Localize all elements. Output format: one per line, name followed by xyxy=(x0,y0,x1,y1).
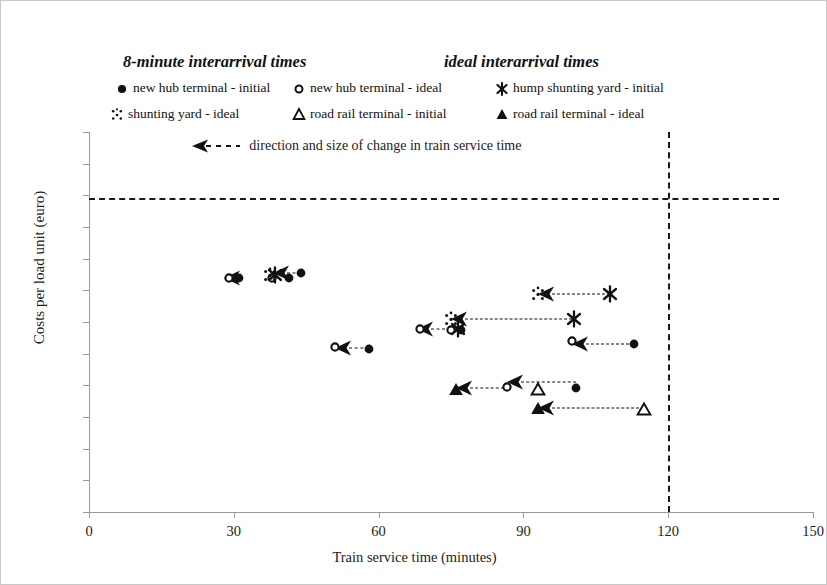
legend-item-label: new hub terminal - initial xyxy=(133,81,270,95)
legend-item-label: shunting yard - ideal xyxy=(128,107,239,121)
data-point xyxy=(565,334,579,348)
data-point xyxy=(529,400,546,416)
x-axis-tick xyxy=(813,512,814,518)
filled-circle-icon xyxy=(114,80,130,96)
hollow-circle-icon xyxy=(291,80,307,96)
legend-item-hump-shunting-yard-initial[interactable]: hump shunting yard - initial xyxy=(494,80,664,96)
legend-item-road-rail-terminal-initial[interactable]: road rail terminal - initial xyxy=(291,106,446,122)
x-axis-tick xyxy=(234,512,235,518)
legend-item-label: hump shunting yard - initial xyxy=(513,81,664,95)
legend-group-title-8-minute: 8-minute interarrival times xyxy=(123,52,306,72)
x-axis-tick xyxy=(668,512,669,518)
cost-threshold-reference-line xyxy=(89,198,779,200)
data-point xyxy=(447,381,464,397)
data-point xyxy=(413,322,427,336)
data-point xyxy=(328,340,342,354)
annotation-text: direction and size of change in train se… xyxy=(249,138,521,154)
legend-item-new-hub-terminal-ideal[interactable]: new hub terminal - ideal xyxy=(291,80,442,96)
x-axis-label: Train service time (minutes) xyxy=(1,549,827,566)
x-axis-line xyxy=(89,512,814,513)
legend-item-label: road rail terminal - initial xyxy=(310,107,446,121)
x-axis-tick xyxy=(379,512,380,518)
y-axis-label: Costs per load unit (euro) xyxy=(31,118,48,418)
data-point xyxy=(294,266,308,280)
left-dashed-arrow-icon xyxy=(190,138,242,154)
data-point xyxy=(222,271,236,285)
filled-star-icon xyxy=(494,80,510,96)
change-arrow-line xyxy=(465,318,571,319)
data-point xyxy=(262,267,278,283)
data-point xyxy=(500,380,514,394)
legend-item-label: new hub terminal - ideal xyxy=(310,81,442,95)
x-axis-tick-label: 90 xyxy=(516,523,531,540)
change-arrow-line xyxy=(552,408,644,409)
x-axis-tick xyxy=(523,512,524,518)
legend-item-road-rail-terminal-ideal[interactable]: road rail terminal - ideal xyxy=(494,106,644,122)
time-threshold-reference-line xyxy=(668,132,670,512)
x-axis-tick-label: 0 xyxy=(85,523,92,540)
chart-figure: 8-minute interarrival times ideal intera… xyxy=(0,0,827,585)
x-axis-tick-label: 60 xyxy=(371,523,386,540)
dotted-star-icon xyxy=(109,106,125,122)
x-axis-tick-label: 30 xyxy=(227,523,242,540)
data-point xyxy=(530,381,546,396)
legend-item-new-hub-terminal-initial[interactable]: new hub terminal - initial xyxy=(114,80,270,96)
change-direction-annotation: direction and size of change in train se… xyxy=(190,138,521,154)
data-point xyxy=(565,310,583,328)
filled-triangle-icon xyxy=(494,106,510,122)
data-point xyxy=(443,311,459,327)
legend-group-title-ideal: ideal interarrival times xyxy=(444,52,599,72)
data-point xyxy=(530,286,546,302)
data-point xyxy=(362,342,376,356)
plot-area: direction and size of change in train se… xyxy=(89,132,813,512)
hollow-triangle-icon xyxy=(291,106,307,122)
data-point xyxy=(636,401,652,416)
data-point xyxy=(627,337,641,351)
x-axis-tick-label: 120 xyxy=(657,523,679,540)
legend-item-shunting-yard-ideal[interactable]: shunting yard - ideal xyxy=(109,106,239,122)
chart-legend: 8-minute interarrival times ideal intera… xyxy=(1,23,827,119)
x-axis-tick-label: 150 xyxy=(802,523,824,540)
data-point xyxy=(601,285,619,303)
x-axis-tick xyxy=(89,512,90,518)
legend-item-label: road rail terminal - ideal xyxy=(513,107,644,121)
data-point xyxy=(569,381,583,395)
